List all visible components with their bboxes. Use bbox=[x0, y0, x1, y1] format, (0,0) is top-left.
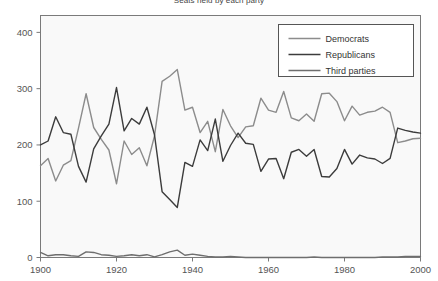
chart-container: Seats held by each party 0100200300400 1… bbox=[0, 0, 438, 281]
y-tick-label: 0 bbox=[27, 252, 32, 263]
x-tick-label: 1960 bbox=[258, 264, 279, 275]
legend-label-democrats: Democrats bbox=[326, 34, 370, 44]
y-tick-label: 400 bbox=[17, 27, 33, 38]
x-tick-label: 1980 bbox=[334, 264, 355, 275]
x-tick-label: 1900 bbox=[30, 264, 51, 275]
x-tick-label: 1920 bbox=[106, 264, 127, 275]
x-tick-label: 1940 bbox=[182, 264, 203, 275]
x-tick-label: 2000 bbox=[410, 264, 431, 275]
legend-label-third-parties: Third parties bbox=[326, 66, 377, 76]
y-tick-label: 300 bbox=[17, 83, 33, 94]
legend-label-republicans: Republicans bbox=[326, 50, 376, 60]
x-axis-ticks: 190019201940196019802000 bbox=[30, 258, 431, 275]
y-axis-ticks: 0100200300400 bbox=[17, 27, 41, 263]
y-tick-label: 200 bbox=[17, 139, 33, 150]
line-chart: 0100200300400 190019201940196019802000 D… bbox=[0, 0, 438, 281]
y-tick-label: 100 bbox=[17, 196, 33, 207]
chart-legend: DemocratsRepublicansThird parties bbox=[279, 25, 414, 77]
